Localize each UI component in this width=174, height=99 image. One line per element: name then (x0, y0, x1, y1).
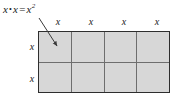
grid-cell (105, 63, 137, 93)
equals-sign: = (18, 3, 26, 15)
grid-cell (39, 63, 71, 93)
area-model-grid (38, 31, 170, 93)
area-model-figure: x•x=x2 x x x x x x (0, 0, 174, 99)
equation-result-exponent: 2 (32, 2, 36, 10)
row-label-2: x (26, 74, 38, 84)
grid-cell (137, 32, 169, 62)
column-label-1: x (51, 17, 65, 27)
equation-label: x•x=x2 (3, 4, 35, 15)
row-label-1: x (26, 42, 38, 52)
grid-cell (72, 32, 104, 62)
grid-cell (105, 32, 137, 62)
grid-cell (72, 63, 104, 93)
column-label-2: x (84, 17, 98, 27)
grid-cell (137, 63, 169, 93)
column-label-3: x (117, 17, 131, 27)
column-label-4: x (150, 17, 164, 27)
grid-cell (39, 32, 71, 62)
